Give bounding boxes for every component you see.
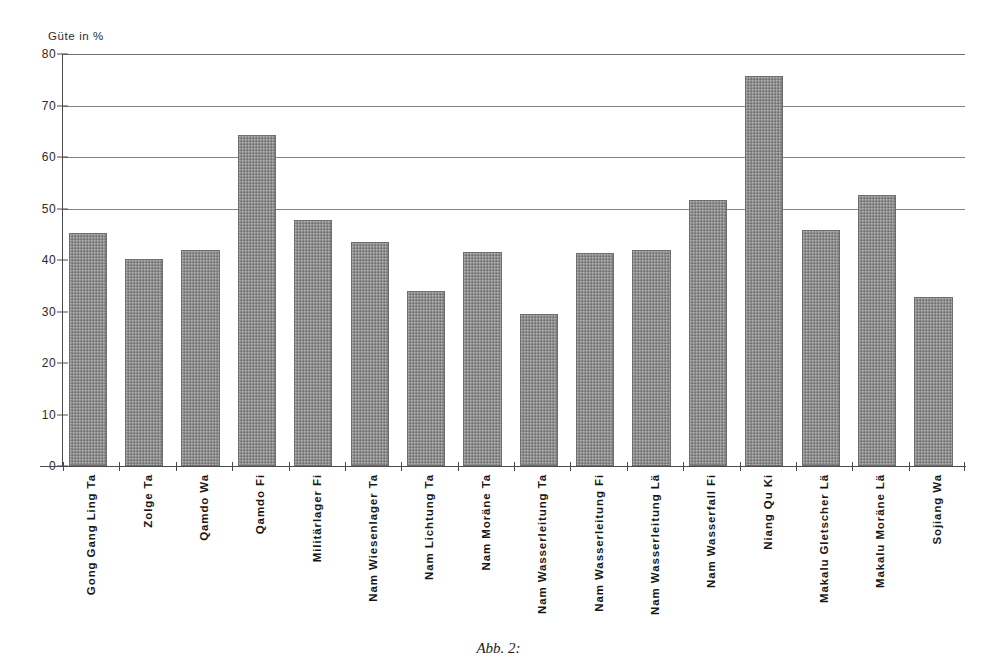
x-tick-label: Qamdo Wa [198, 474, 210, 541]
x-tick-mark [289, 462, 290, 471]
x-tick-label: Nam Wasserfall Fi [705, 474, 717, 588]
y-tick-label-60: 60 [42, 150, 56, 164]
x-axis-category-labels: Gong Gang Ling TaZolge TaQamdo WaQamdo F… [63, 474, 965, 624]
x-tick-mark [570, 462, 571, 471]
y-tick-label-40: 40 [42, 253, 56, 267]
y-tick-mark-0 [57, 466, 68, 467]
bar[interactable] [238, 135, 276, 466]
x-tick-mark [796, 462, 797, 471]
bar-slot [345, 54, 401, 466]
y-tick-mark-10 [57, 414, 68, 415]
y-tick-label-70: 70 [42, 99, 56, 113]
x-label-slot: Nam Wasserleitung Fi [570, 474, 626, 624]
bar[interactable] [351, 242, 389, 466]
x-tick-mark [627, 462, 628, 471]
x-tick-label: Niang Qu Ki [762, 474, 774, 550]
bar[interactable] [745, 76, 783, 466]
x-tick-mark [63, 462, 64, 471]
x-tick-mark [964, 462, 965, 471]
x-label-slot: Sojiang Wa [909, 474, 965, 624]
bar-slot [909, 54, 965, 466]
figure-container: Güte in % 01020304050607080 Gong Gang Li… [0, 0, 997, 668]
x-label-slot: Militärlager Fi [289, 474, 345, 624]
y-tick-mark-30 [57, 311, 68, 312]
bar[interactable] [858, 195, 896, 466]
y-axis-tick-labels: 01020304050607080 [20, 54, 56, 466]
bar-slot [570, 54, 626, 466]
bar-slot [401, 54, 457, 466]
bar[interactable] [632, 250, 670, 466]
bar-slot [289, 54, 345, 466]
y-tick-mark-50 [57, 208, 68, 209]
x-tick-mark [458, 462, 459, 471]
x-label-slot: Qamdo Wa [176, 474, 232, 624]
y-tick-mark-40 [57, 260, 68, 261]
x-tick-mark [345, 462, 346, 471]
x-tick-label: Nam Wiesenlager Ta [367, 474, 379, 602]
x-tick-mark [740, 462, 741, 471]
y-tick-label-80: 80 [42, 47, 56, 61]
x-tick-label: Nam Lichtung Ta [423, 474, 435, 580]
x-label-slot: Nam Wasserleitung Ta [514, 474, 570, 624]
x-tick-mark [176, 462, 177, 471]
bar[interactable] [407, 291, 445, 466]
x-tick-mark [683, 462, 684, 471]
x-tick-label: Nam Moräne Ta [480, 474, 492, 570]
y-tick-label-50: 50 [42, 202, 56, 216]
y-tick-mark-20 [57, 363, 68, 364]
x-tick-mark [401, 462, 402, 471]
figure-caption: Abb. 2: [0, 640, 997, 657]
x-label-slot: Makalu Gletscher Lä [796, 474, 852, 624]
bar[interactable] [69, 233, 107, 466]
x-tick-label: Qamdo Fi [254, 474, 266, 534]
x-tick-mark [232, 462, 233, 471]
bar-slot [63, 54, 119, 466]
x-tick-label: Makalu Gletscher Lä [818, 474, 830, 603]
bar-slot [514, 54, 570, 466]
x-label-slot: Makalu Moräne Lä [852, 474, 908, 624]
bar[interactable] [463, 252, 501, 466]
bar-slot [627, 54, 683, 466]
x-tick-label: Nam Wasserleitung Ta [536, 474, 548, 614]
x-label-slot: Nam Wasserfall Fi [683, 474, 739, 624]
x-label-slot: Nam Wasserleitung Lä [627, 474, 683, 624]
bar-slot [740, 54, 796, 466]
y-tick-mark-60 [57, 157, 68, 158]
bar-slot [796, 54, 852, 466]
bar-slot [683, 54, 739, 466]
bar-series [63, 54, 965, 466]
bar[interactable] [689, 200, 727, 466]
x-tick-label: Sojiang Wa [931, 474, 943, 545]
bar[interactable] [802, 230, 840, 466]
y-tick-label-30: 30 [42, 305, 56, 319]
bar[interactable] [576, 253, 614, 466]
x-label-slot: Nam Lichtung Ta [401, 474, 457, 624]
x-tick-mark [909, 462, 910, 471]
bar[interactable] [125, 259, 163, 466]
x-label-slot: Nam Moräne Ta [458, 474, 514, 624]
x-label-slot: Zolge Ta [119, 474, 175, 624]
x-tick-label: Makalu Moräne Lä [874, 474, 886, 588]
bar-slot [119, 54, 175, 466]
x-tick-label: Militärlager Fi [311, 474, 323, 562]
bar-slot [852, 54, 908, 466]
x-label-slot: Gong Gang Ling Ta [63, 474, 119, 624]
y-tick-label-10: 10 [42, 408, 56, 422]
x-label-slot: Nam Wiesenlager Ta [345, 474, 401, 624]
x-tick-label: Zolge Ta [142, 474, 154, 528]
x-tick-mark [514, 462, 515, 471]
bar[interactable] [294, 220, 332, 466]
x-label-slot: Niang Qu Ki [740, 474, 796, 624]
y-axis-title: Güte in % [48, 30, 104, 42]
bar[interactable] [914, 297, 952, 466]
x-tick-label: Gong Gang Ling Ta [85, 474, 97, 595]
bar-slot [176, 54, 232, 466]
y-tick-label-20: 20 [42, 356, 56, 370]
bar[interactable] [520, 314, 558, 466]
bar[interactable] [181, 250, 219, 466]
x-tick-label: Nam Wasserleitung Lä [649, 474, 661, 615]
x-tick-mark [852, 462, 853, 471]
x-tick-label: Nam Wasserleitung Fi [593, 474, 605, 612]
bar-slot [232, 54, 288, 466]
bar-slot [458, 54, 514, 466]
